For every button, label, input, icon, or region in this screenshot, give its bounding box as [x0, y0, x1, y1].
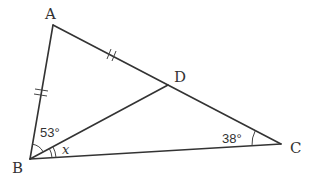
angle-arc-bca [252, 131, 255, 146]
triangle-figure: A B C D 53° x 38° [0, 0, 321, 177]
vertex-label-c: C [290, 139, 301, 157]
angle-arc-dbc-inner [49, 149, 52, 158]
vertex-label-b: B [12, 159, 23, 177]
angle-label-dbc: x [62, 142, 70, 157]
segment-bd [30, 85, 168, 159]
angle-arc-dbc-outer [53, 147, 56, 158]
segment-ac [53, 25, 281, 144]
angle-label-abd: 53° [40, 125, 60, 140]
angle-label-bca: 38° [222, 131, 242, 146]
angle-arc-abd [33, 144, 44, 152]
vertex-label-a: A [44, 5, 56, 23]
geometry-diagram: A B C D 53° x 38° [0, 0, 321, 177]
vertex-label-d: D [174, 68, 186, 86]
